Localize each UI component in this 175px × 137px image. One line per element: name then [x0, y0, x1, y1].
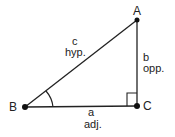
- side-b-role: opp.: [143, 62, 164, 74]
- vertex-c-dot: [134, 103, 140, 109]
- side-c-role: hyp.: [65, 46, 86, 58]
- side-c-hypotenuse: [25, 20, 137, 107]
- vertex-b-label: B: [9, 100, 17, 114]
- triangle-diagram: A B C c hyp. b opp. a adj.: [0, 0, 175, 137]
- side-a-name: a: [88, 106, 95, 118]
- vertex-a-label: A: [133, 4, 141, 18]
- side-a-adjacent: [25, 106, 137, 107]
- vertex-a-dot: [135, 18, 140, 23]
- vertex-c-label: C: [143, 99, 152, 113]
- side-a-role: adj.: [84, 118, 102, 130]
- angle-arc-b: [46, 91, 53, 107]
- vertex-b-dot: [22, 104, 28, 110]
